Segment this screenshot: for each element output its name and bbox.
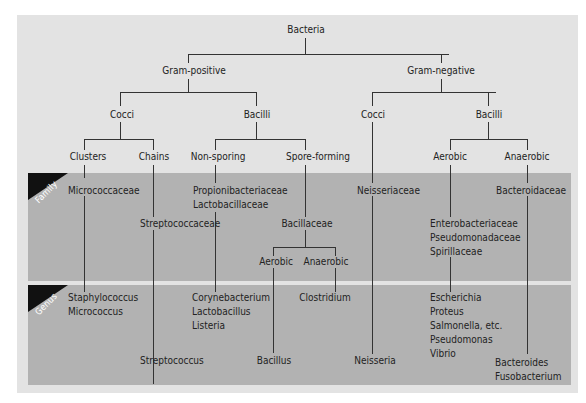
node-chains: Chains: [139, 150, 169, 164]
connector: [120, 92, 257, 93]
connector: [305, 230, 306, 247]
connector: [450, 165, 451, 217]
family-bacillaceae: Bacillaceae: [281, 217, 332, 231]
family-bacteroidaceae: Bacteroidaceae: [496, 184, 566, 198]
connector: [188, 54, 449, 55]
connector: [256, 122, 257, 139]
genus-proteus: Proteus: [430, 305, 464, 319]
connector: [256, 92, 257, 106]
connector: [488, 122, 489, 139]
family-streptococcaceae: Streptococcaceae: [140, 217, 220, 231]
genus-bacteroides: Bacteroides: [495, 356, 548, 370]
node-non-sporing: Non-sporing: [191, 150, 246, 164]
genus-lactobacillus: Lactobacillus: [192, 305, 251, 319]
node-gn-anaerobic: Anaerobic: [504, 150, 549, 164]
family-micrococcaceae: Micrococcaceae: [68, 184, 140, 198]
genus-streptococcus: Streptococcus: [140, 354, 204, 368]
connector: [372, 92, 496, 93]
connector: [215, 165, 216, 183]
genus-micrococcus: Micrococcus: [68, 305, 123, 319]
connector: [84, 196, 85, 292]
genus-pseudomonas: Pseudomonas: [430, 333, 493, 347]
node-gram-positive: Gram-positive: [162, 64, 225, 78]
connector: [153, 139, 154, 150]
family-enterobacteriaceae: Enterobacteriaceae: [430, 217, 518, 231]
connector: [527, 165, 528, 183]
node-clusters: Clusters: [70, 150, 107, 164]
genus-corynebacterium: Corynebacterium: [192, 291, 270, 305]
family-spirillaceae: Spirillaceae: [430, 245, 482, 259]
connector: [84, 165, 85, 178]
genus-escherichia: Escherichia: [430, 291, 481, 305]
genus-salmonella: Salmonella, etc.: [430, 319, 502, 333]
genus-vibrio: Vibrio: [430, 347, 456, 361]
node-gn-aerobic: Aerobic: [433, 150, 467, 164]
connector: [273, 268, 274, 353]
connector: [372, 122, 373, 183]
connector: [488, 92, 489, 106]
connector: [188, 79, 189, 92]
genus-fusobacterium: Fusobacterium: [495, 370, 561, 384]
node-bacteria: Bacteria: [287, 23, 324, 37]
genus-staphylococcus: Staphylococcus: [68, 291, 138, 305]
genus-bacillus: Bacillus: [257, 354, 292, 368]
family-pseudomonadaceae: Pseudomonadaceae: [430, 231, 521, 245]
family-propionibacteriaceae: Propionibacteriaceae: [193, 184, 288, 198]
connector: [84, 139, 154, 140]
connector: [188, 54, 189, 63]
genus-neisseria: Neisseria: [354, 354, 395, 368]
connector: [153, 165, 154, 217]
family-lactobacillaceae: Lactobacillaceae: [193, 198, 268, 212]
connector: [441, 79, 442, 92]
connector: [305, 139, 306, 150]
node-spore-forming: Spore-forming: [286, 150, 350, 164]
connector: [335, 268, 336, 292]
connector: [527, 139, 528, 150]
connector: [527, 196, 528, 354]
node-gram-negative: Gram-negative: [407, 64, 475, 78]
genus-listeria: Listeria: [192, 319, 225, 333]
node-gp-cocci: Cocci: [110, 108, 134, 122]
connector: [120, 122, 121, 139]
node-gp-anaerobic: Anaerobic: [303, 255, 348, 269]
node-gp-aerobic: Aerobic: [259, 255, 293, 269]
connector: [372, 92, 373, 106]
node-gp-bacilli: Bacilli: [244, 108, 271, 122]
family-neisseriaceae: Neisseriaceae: [357, 184, 420, 198]
connector: [450, 257, 451, 292]
connector: [215, 139, 216, 150]
connector: [441, 54, 442, 63]
connector: [273, 247, 336, 248]
connector: [450, 139, 451, 150]
node-gn-bacilli: Bacilli: [476, 108, 503, 122]
connector: [120, 92, 121, 106]
node-gn-cocci: Cocci: [361, 108, 385, 122]
connector: [305, 38, 306, 54]
connector: [305, 165, 306, 217]
connector: [215, 139, 306, 140]
connector: [372, 196, 373, 354]
genus-clostridium: Clostridium: [299, 291, 350, 305]
connector: [84, 139, 85, 150]
connector: [450, 139, 528, 140]
